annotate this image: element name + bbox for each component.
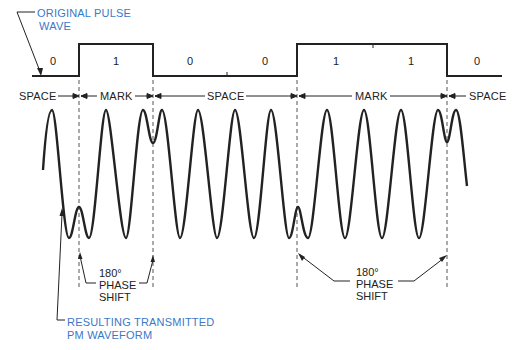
phase-shift-leader-left [80,256,96,283]
arrowhead [151,255,156,262]
callout-original-line1: ORIGINAL PULSE [37,7,131,19]
segment-label-space: SPACE [205,90,246,102]
bit-label: 1 [408,55,414,67]
arrowhead [298,253,305,261]
phase-shift-label-right: 180° PHASE SHIFT [356,266,393,302]
bit-label: 0 [187,55,193,67]
phase-shift-leader-right [398,258,444,281]
segment-label-space: SPACE [17,90,58,102]
bit-label: 1 [113,55,119,67]
pm-diagram [0,0,517,350]
segment-label-mark: MARK [353,90,390,102]
bit-label: 1 [333,55,339,67]
segment-label-space: SPACE [467,90,508,102]
bit-label: 0 [474,55,480,67]
segment-label-mark: MARK [98,90,135,102]
callout-leader-resulting [57,214,65,320]
phase-shift-label-left: 180° PHASE SHIFT [99,267,136,303]
bit-label: 0 [262,55,268,67]
pm-waveform [43,110,467,238]
phase-shift-leader-right [300,255,350,281]
phase-shift-leader-left [139,260,153,283]
callout-original-line2: WAVE [39,20,71,32]
callout-leader-original [17,12,41,74]
bit-label: 0 [50,55,56,67]
arrowhead [37,68,43,76]
callout-resulting-line2: PM WAVEFORM [67,329,152,341]
callout-resulting-line1: RESULTING TRANSMITTED [67,316,214,328]
